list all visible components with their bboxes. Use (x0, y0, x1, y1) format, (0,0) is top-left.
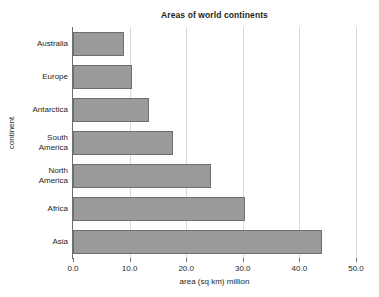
bar (73, 197, 245, 221)
bar (73, 131, 173, 155)
gridline (356, 27, 357, 258)
bar (73, 230, 322, 254)
bar-chart: Areas of world continents AustraliaEurop… (0, 0, 379, 297)
x-axis-title: area (sq km) million (73, 277, 356, 287)
y-axis-tick-label: Antarctica (32, 105, 68, 115)
y-axis-tick-label: South America (39, 133, 68, 152)
chart-title: Areas of world continents (73, 10, 356, 20)
x-axis-tick-label: 30.0 (223, 264, 263, 274)
bar-row (73, 32, 356, 56)
x-axis-tick-label: 10.0 (110, 264, 150, 274)
bar (73, 65, 132, 89)
y-axis-tick-label: Africa (48, 204, 68, 214)
y-axis-tick-label: Asia (52, 237, 68, 247)
y-axis-tick-label: Europe (42, 72, 68, 82)
x-axis-tick-mark (73, 258, 74, 262)
bar-row (73, 131, 356, 155)
x-axis-tick-mark (186, 258, 187, 262)
x-axis-tick-mark (356, 258, 357, 262)
x-axis-tick-mark (243, 258, 244, 262)
x-axis-tick-label: 40.0 (279, 264, 319, 274)
y-axis-tick-label: North America (39, 166, 68, 185)
x-axis-tick-label: 50.0 (336, 264, 376, 274)
bar-row (73, 164, 356, 188)
bar (73, 98, 149, 122)
x-axis-tick-label: 0.0 (53, 264, 93, 274)
bar (73, 32, 124, 56)
bar-row (73, 230, 356, 254)
bar-row (73, 98, 356, 122)
y-axis-title: continent (7, 88, 17, 178)
y-axis-tick-label: Australia (37, 39, 68, 49)
x-axis-tick-label: 20.0 (166, 264, 206, 274)
bar (73, 164, 211, 188)
bar-row (73, 197, 356, 221)
x-axis-tick-mark (299, 258, 300, 262)
bar-row (73, 65, 356, 89)
x-axis-tick-mark (130, 258, 131, 262)
